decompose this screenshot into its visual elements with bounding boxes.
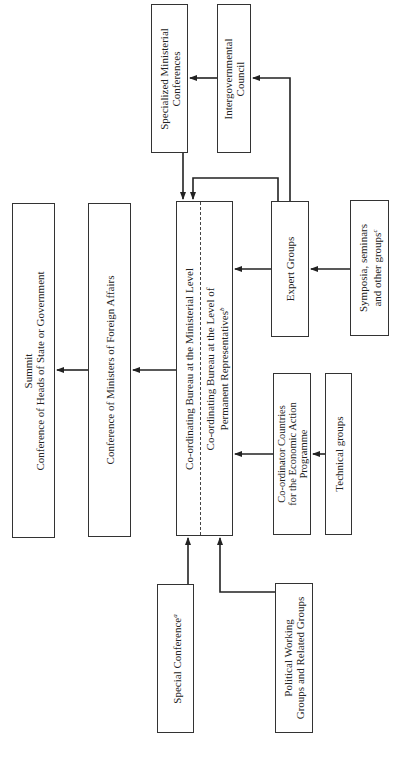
coordinator-countries-label: Co-ordinator Countries for the Economic … (276, 402, 309, 506)
summit-label: Summit Conference of Heads of State or G… (22, 271, 46, 470)
coordinator-countries-box: Co-ordinator Countries for the Economic … (273, 373, 311, 535)
bureau-ministerial-section: Co-ordinating Bureau at the Ministerial … (177, 202, 201, 535)
symposia-box: Symposia, seminars and other groupsc (350, 200, 389, 336)
specialized-ministerial-label: Specialized Ministerial Conferences (158, 28, 182, 130)
intergovernmental-title: Intergovernmental (222, 38, 234, 119)
intergovernmental-subtitle: Council (234, 38, 246, 119)
technical-groups-label: Technical groups (333, 416, 345, 491)
expert-groups-title: Expert Groups (284, 237, 296, 301)
special-conference-box: Special Conferencea (157, 584, 194, 733)
footnote-c: c (370, 229, 378, 232)
specialized-ministerial-title: Specialized Ministerial (158, 28, 170, 130)
summit-title: Summit (22, 271, 34, 470)
footnote-a: a (170, 614, 178, 618)
expert-groups-label: Expert Groups (284, 237, 296, 301)
political-working-title: Political Working (282, 597, 294, 720)
summit-box: Summit Conference of Heads of State or G… (12, 203, 55, 538)
coordinating-bureau-box: Co-ordinating Bureau at the Ministerial … (176, 201, 233, 536)
summit-subtitle: Conference of Heads of State or Governme… (34, 271, 46, 470)
symposia-subtitle: and other groups (371, 233, 383, 307)
political-working-box: Political Working Groups and Related Gro… (275, 583, 313, 733)
bureau-permanent-section: Co-ordinating Bureau at the Level of Per… (201, 202, 233, 535)
special-conference-title: Special Conference (171, 617, 183, 703)
bureau-permanent-title: Co-ordinating Bureau at the Level of (204, 287, 216, 450)
coordinator-countries-line1: Co-ordinator Countries (276, 402, 287, 506)
symposia-title: Symposia, seminars (356, 224, 368, 312)
technical-groups-title: Technical groups (333, 416, 345, 491)
technical-groups-box: Technical groups (325, 373, 352, 535)
symposia-label: Symposia, seminars and other groupsc (356, 224, 383, 312)
specialized-ministerial-subtitle: Conferences (170, 28, 182, 130)
specialized-ministerial-box: Specialized Ministerial Conferences (151, 4, 188, 153)
political-working-subtitle: Groups and Related Groups (294, 597, 306, 720)
expert-groups-box: Expert Groups (271, 201, 309, 337)
bureau-ministerial-label: Co-ordinating Bureau at the Ministerial … (183, 268, 195, 470)
foreign-affairs-box: Conference of Ministers of Foreign Affai… (88, 203, 131, 537)
coordinator-countries-line2: for the Economic Action (287, 402, 298, 506)
intergovernmental-council-box: Intergovernmental Council (217, 4, 251, 153)
special-conference-label: Special Conferencea (168, 614, 183, 703)
footnote-b: b (218, 307, 226, 311)
bureau-permanent-label: Co-ordinating Bureau at the Level of Per… (204, 287, 231, 450)
foreign-affairs-label: Conference of Ministers of Foreign Affai… (104, 276, 116, 465)
political-working-label: Political Working Groups and Related Gro… (282, 597, 306, 720)
coordinator-countries-line3: Programme (298, 402, 309, 506)
intergovernmental-council-label: Intergovernmental Council (222, 38, 246, 119)
bureau-ministerial-title: Co-ordinating Bureau at the Ministerial … (183, 268, 195, 470)
bureau-permanent-subtitle: Permanent Representatives (218, 311, 230, 430)
foreign-affairs-title: Conference of Ministers of Foreign Affai… (104, 276, 116, 465)
